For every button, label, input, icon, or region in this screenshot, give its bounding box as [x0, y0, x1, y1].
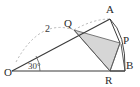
geometry-canvas: O A Q P R B 2 30°: [0, 0, 140, 87]
vertex-label-q: Q: [64, 17, 72, 29]
vertex-label-b: B: [126, 59, 133, 71]
radius-length-label: 2: [45, 23, 50, 34]
vertex-label-o: O: [4, 66, 12, 78]
vertex-label-p: P: [123, 34, 129, 46]
shaded-region-qpr: [74, 30, 120, 71]
angle-measure-label: 30°: [28, 61, 41, 71]
vertex-label-a: A: [106, 3, 114, 15]
vertex-label-r: R: [105, 74, 113, 86]
geometry-figure: O A Q P R B 2 30°: [0, 0, 140, 87]
